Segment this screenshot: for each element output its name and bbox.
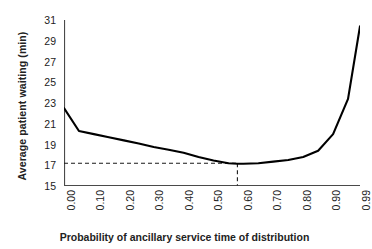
x-tick-label: 0.10 [94, 190, 106, 210]
plot-area [64, 20, 360, 186]
y-tick-label: 29 [44, 35, 56, 47]
y-tick-label: 17 [44, 159, 56, 171]
x-tick-label-text: 0.80 [301, 190, 313, 210]
y-tick-label: 31 [44, 14, 56, 26]
x-tick-label: 0.40 [183, 190, 195, 210]
x-tick-label: 0.00 [65, 190, 77, 210]
x-tick-label-text: 0.10 [94, 190, 106, 210]
y-axis-tick-labels: 31 29 27 25 23 21 19 17 15 [0, 0, 64, 249]
x-tick-label: 0.20 [124, 190, 136, 210]
y-tick-label: 27 [44, 56, 56, 68]
data-series-line [64, 26, 360, 163]
x-tick-label-text: 0.00 [65, 190, 77, 210]
x-tick-label-text: 0.70 [271, 190, 283, 210]
y-tick-label: 19 [44, 139, 56, 151]
x-tick-label: 0.50 [212, 190, 224, 210]
x-tick-label-text: 0.30 [153, 190, 165, 210]
x-axis-tick-labels: 0.00 0.10 0.20 0.30 0.40 0.50 0.60 0.70 … [64, 188, 360, 236]
x-tick-label-text: 0.90 [330, 190, 342, 210]
x-tick-label-text: 0.50 [212, 190, 224, 210]
y-tick-label: 23 [44, 97, 56, 109]
x-tick-label-text: 0.20 [124, 190, 136, 210]
x-tick-label: 0.90 [330, 190, 342, 210]
x-tick-label: 0.70 [271, 190, 283, 210]
x-tick-label: 0.30 [153, 190, 165, 210]
x-tick-label: 0.80 [301, 190, 313, 210]
x-tick-label-text: 0.60 [242, 190, 254, 210]
x-tick-label-text: 0.40 [183, 190, 195, 210]
y-tick-label: 21 [44, 118, 56, 130]
chart-canvas [64, 20, 360, 186]
x-tick-label: 0.99 [360, 190, 372, 210]
x-tick-label: 0.60 [242, 190, 254, 210]
y-tick-label: 25 [44, 76, 56, 88]
x-tick-label-text: 0.99 [360, 190, 372, 210]
y-tick-label: 15 [44, 180, 56, 192]
x-axis-title: Probability of ancillary service time of… [0, 231, 369, 243]
